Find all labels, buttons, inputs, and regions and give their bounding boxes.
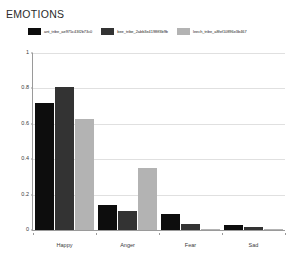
bar-group bbox=[159, 53, 222, 230]
x-tick-mark bbox=[285, 233, 286, 235]
legend-swatch-icon bbox=[28, 28, 41, 35]
x-tick-label: Sad bbox=[249, 242, 259, 248]
x-tick-mark bbox=[159, 233, 160, 235]
bar[interactable] bbox=[35, 103, 54, 230]
bar[interactable] bbox=[244, 227, 263, 230]
chart-legend: ant_tribe_ae975c43f2b73c0bee_tribe_2abb3… bbox=[28, 26, 247, 37]
legend-entry[interactable]: ant_tribe_ae975c43f2b73c0 bbox=[28, 28, 92, 35]
bar[interactable] bbox=[75, 119, 94, 231]
bar[interactable] bbox=[98, 205, 117, 230]
x-tick-label: Happy bbox=[57, 242, 73, 248]
bar-group bbox=[222, 53, 285, 230]
legend-swatch-icon bbox=[177, 28, 190, 35]
legend-swatch-icon bbox=[101, 28, 114, 35]
bar[interactable] bbox=[264, 229, 283, 230]
x-label-cell: Fear bbox=[159, 233, 222, 251]
legend-entry[interactable]: bee_tribe_2abb3e4198ff3b9b bbox=[101, 28, 168, 35]
x-tick-mark bbox=[33, 233, 34, 235]
bar[interactable] bbox=[161, 214, 180, 230]
x-axis-line bbox=[32, 230, 285, 231]
bar[interactable] bbox=[224, 225, 243, 230]
legend-label: leech_tribe_a8fef10896e3b467 bbox=[193, 30, 247, 34]
bar-group bbox=[33, 53, 96, 230]
bar[interactable] bbox=[55, 87, 74, 230]
y-tick-label: 0 bbox=[26, 227, 29, 233]
bar[interactable] bbox=[201, 229, 220, 230]
x-label-cell: Happy bbox=[33, 233, 96, 251]
y-tick-label: 0.6 bbox=[21, 121, 29, 127]
y-tick-label: 0.4 bbox=[21, 156, 29, 162]
x-label-cell: Anger bbox=[96, 233, 159, 251]
x-tick-label: Fear bbox=[185, 242, 196, 248]
x-tick-mark bbox=[96, 233, 97, 235]
legend-entry[interactable]: leech_tribe_a8fef10896e3b467 bbox=[177, 28, 247, 35]
emotions-bar-chart: EMOTIONS ant_tribe_ae975c43f2b73c0bee_tr… bbox=[0, 0, 296, 255]
bar-group bbox=[96, 53, 159, 230]
y-tick-label: 0.2 bbox=[21, 192, 29, 198]
bar-groups bbox=[33, 53, 285, 230]
legend-label: ant_tribe_ae975c43f2b73c0 bbox=[44, 30, 92, 34]
x-label-cell: Sad bbox=[222, 233, 285, 251]
y-tick-label: 1 bbox=[26, 50, 29, 56]
bar[interactable] bbox=[138, 168, 157, 230]
legend-label: bee_tribe_2abb3e4198ff3b9b bbox=[117, 30, 168, 34]
chart-title: EMOTIONS bbox=[6, 8, 64, 20]
plot-area: 00.20.40.60.81 HappyAngerFearSad bbox=[33, 53, 285, 230]
x-axis-labels: HappyAngerFearSad bbox=[33, 233, 285, 251]
x-tick-label: Anger bbox=[120, 242, 135, 248]
bar[interactable] bbox=[181, 224, 200, 230]
bar[interactable] bbox=[118, 211, 137, 230]
x-tick-mark bbox=[222, 233, 223, 235]
y-tick-label: 0.8 bbox=[21, 86, 29, 92]
